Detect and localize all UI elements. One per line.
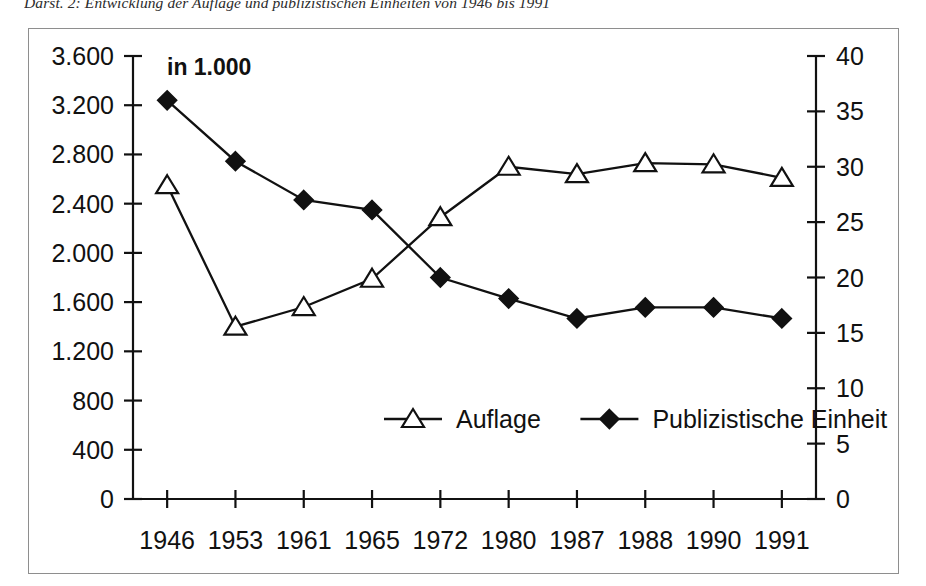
data-point-publizistische-einheit [499, 289, 518, 308]
left-axis-tick-label: 1.600 [51, 288, 114, 316]
left-axis-tick-label: 2.000 [51, 239, 114, 267]
right-axis-tick-label: 35 [836, 97, 864, 125]
legend-label: Auflage [456, 405, 541, 433]
data-point-publizistische-einheit [772, 309, 791, 328]
figure-frame: 04008001.2001.6002.0002.4002.8003.2003.6… [28, 28, 899, 574]
right-axis-tick-label: 0 [836, 485, 850, 513]
x-axis-tick-label: 1946 [139, 526, 195, 554]
left-axis-tick-label: 3.200 [51, 91, 114, 119]
right-axis-tick-label: 10 [836, 374, 864, 402]
unit-note-label: in 1.000 [167, 54, 251, 80]
x-axis-tick-label: 1972 [413, 526, 469, 554]
data-point-auflage [429, 207, 451, 225]
right-axis-tick-label: 15 [836, 319, 864, 347]
figure-caption: Darst. 2: Entwicklung der Auflage und pu… [24, 0, 904, 16]
data-point-auflage [224, 317, 246, 335]
chart-plot-area: 04008001.2001.6002.0002.4002.8003.2003.6… [29, 29, 900, 575]
series-line-publizistische-einheit [167, 100, 782, 318]
right-axis-tick-label: 40 [836, 42, 864, 70]
right-axis-tick-label: 30 [836, 153, 864, 181]
line-chart: 04008001.2001.6002.0002.4002.8003.2003.6… [29, 29, 900, 575]
x-axis-tick-label: 1953 [208, 526, 264, 554]
legend-marker-diamond-filled [600, 410, 619, 429]
x-axis-tick-label: 1980 [481, 526, 537, 554]
left-axis-tick-label: 800 [72, 387, 114, 415]
chart-series-group [156, 91, 793, 335]
legend-label: Publizistische Einheit [652, 405, 887, 433]
series-line-auflage [167, 163, 782, 327]
left-axis-tick-label: 3.600 [51, 42, 114, 70]
x-axis-tick-label: 1987 [549, 526, 605, 554]
x-axis-tick-label: 1990 [686, 526, 742, 554]
data-point-publizistische-einheit [636, 298, 655, 317]
left-axis-tick-label: 1.200 [51, 337, 114, 365]
data-point-publizistische-einheit [567, 309, 586, 328]
x-axis-tick-label: 1991 [754, 526, 810, 554]
data-point-auflage [293, 297, 315, 315]
left-axis-ticks: 04008001.2001.6002.0002.4002.8003.2003.6… [51, 42, 142, 513]
left-axis-tick-label: 2.400 [51, 190, 114, 218]
data-point-publizistische-einheit [294, 190, 313, 209]
right-axis-tick-label: 5 [836, 430, 850, 458]
x-axis-tick-label: 1988 [617, 526, 673, 554]
data-point-auflage [156, 175, 178, 193]
left-axis-tick-label: 0 [100, 485, 114, 513]
chart-legend: AuflagePublizistische Einheit [384, 405, 887, 433]
left-axis-tick-label: 2.800 [51, 140, 114, 168]
data-point-auflage [498, 157, 520, 175]
right-axis-tick-label: 20 [836, 264, 864, 292]
left-axis-tick-label: 400 [72, 436, 114, 464]
right-axis-tick-label: 25 [836, 208, 864, 236]
data-point-publizistische-einheit [704, 298, 723, 317]
x-axis-tick-label: 1965 [344, 526, 400, 554]
x-axis-tick-label: 1961 [276, 526, 332, 554]
